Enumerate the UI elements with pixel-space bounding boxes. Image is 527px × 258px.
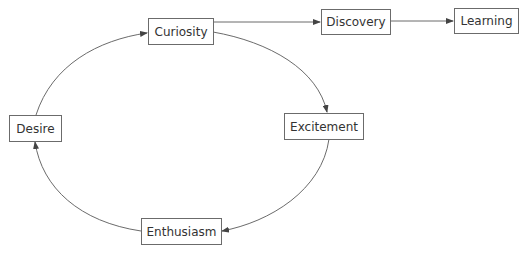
node-learning: Learning — [454, 8, 519, 34]
node-discovery: Discovery — [321, 9, 391, 35]
node-desire-label: Desire — [16, 122, 54, 136]
node-discovery-label: Discovery — [326, 15, 385, 29]
node-curiosity: Curiosity — [148, 18, 214, 45]
edges-layer — [0, 0, 527, 258]
edge-enthusiasm-to-desire — [35, 142, 141, 231]
edge-desire-to-curiosity — [36, 33, 147, 115]
edge-excitement-to-enthusiasm — [222, 139, 329, 231]
node-excitement: Excitement — [284, 113, 364, 140]
node-enthusiasm: Enthusiasm — [141, 218, 222, 245]
node-enthusiasm-label: Enthusiasm — [147, 225, 217, 239]
node-desire: Desire — [9, 115, 62, 142]
node-excitement-label: Excitement — [290, 120, 358, 134]
node-learning-label: Learning — [460, 14, 512, 28]
node-curiosity-label: Curiosity — [155, 25, 208, 39]
edge-curiosity-to-excitement — [213, 32, 327, 112]
diagram-canvas: Curiosity Excitement Enthusiasm Desire D… — [0, 0, 527, 258]
